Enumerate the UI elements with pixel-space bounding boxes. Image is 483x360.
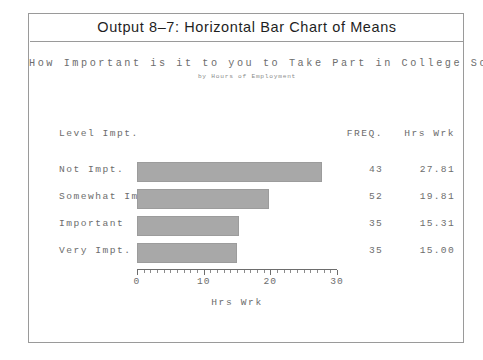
- bar: [137, 189, 269, 209]
- x-tick-minor: [237, 270, 238, 273]
- x-tick-minor: [264, 270, 265, 273]
- bar-category-label: Very Impt.: [59, 245, 132, 256]
- freq-value: 43: [325, 164, 383, 175]
- x-tick-minor: [257, 270, 258, 273]
- x-tick-label: 10: [197, 276, 211, 287]
- x-tick-minor: [317, 270, 318, 273]
- x-tick-minor: [250, 270, 251, 273]
- x-tick-minor: [170, 270, 171, 273]
- mean-value: 15.00: [389, 245, 455, 256]
- x-tick-major: [204, 270, 205, 275]
- bar: [137, 243, 237, 263]
- bar: [137, 162, 322, 182]
- x-tick-minor: [297, 270, 298, 273]
- x-tick-major: [137, 270, 138, 275]
- x-tick-minor: [217, 270, 218, 273]
- x-tick-label: 20: [264, 276, 278, 287]
- x-tick-minor: [330, 270, 331, 273]
- x-tick-minor: [224, 270, 225, 273]
- x-tick-minor: [230, 270, 231, 273]
- mean-value: 19.81: [389, 191, 455, 202]
- freq-value: 35: [325, 218, 383, 229]
- output-frame: Output 8–7: Horizontal Bar Chart of Mean…: [28, 13, 464, 343]
- x-tick-minor: [310, 270, 311, 273]
- x-tick-label: 0: [134, 276, 141, 287]
- freq-value: 35: [325, 245, 383, 256]
- x-axis-label: Hrs Wrk: [137, 297, 337, 308]
- x-tick-major: [270, 270, 271, 275]
- x-tick-minor: [290, 270, 291, 273]
- x-tick-minor: [304, 270, 305, 273]
- x-tick-minor: [190, 270, 191, 273]
- plot-area: Not Impt.4327.81Somewhat Impt.5219.81Imp…: [29, 14, 465, 344]
- x-tick-major: [337, 270, 338, 275]
- x-tick-minor: [164, 270, 165, 273]
- mean-value: 27.81: [389, 164, 455, 175]
- x-tick-minor: [244, 270, 245, 273]
- bar-category-label: Important: [59, 218, 124, 229]
- bar: [137, 216, 239, 236]
- x-tick-minor: [177, 270, 178, 273]
- x-tick-minor: [144, 270, 145, 273]
- x-tick-minor: [277, 270, 278, 273]
- x-tick-minor: [157, 270, 158, 273]
- x-tick-minor: [210, 270, 211, 273]
- mean-value: 15.31: [389, 218, 455, 229]
- x-tick-minor: [324, 270, 325, 273]
- x-tick-minor: [197, 270, 198, 273]
- x-tick-minor: [184, 270, 185, 273]
- bar-category-label: Not Impt.: [59, 164, 124, 175]
- x-tick-minor: [150, 270, 151, 273]
- freq-value: 52: [325, 191, 383, 202]
- x-tick-label: 30: [330, 276, 344, 287]
- x-tick-minor: [284, 270, 285, 273]
